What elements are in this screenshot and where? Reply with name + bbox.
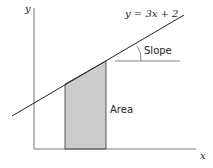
y-axis-label: y: [25, 3, 31, 14]
diagram-graphics: [0, 0, 213, 168]
slope-angle-arc: [137, 46, 141, 61]
slope-label: Slope: [144, 45, 172, 56]
area-label: Area: [110, 104, 133, 115]
area-under-line: [65, 61, 106, 149]
integral-slope-diagram: y x y = 3x + 2 Slope Area: [0, 0, 213, 168]
x-axis-label: x: [200, 150, 206, 161]
equation-label: y = 3x + 2: [125, 8, 179, 19]
